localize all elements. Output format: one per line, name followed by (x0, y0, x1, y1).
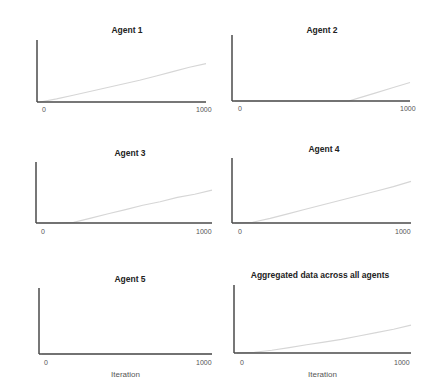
series-line (237, 325, 411, 353)
x-tick-zero: 0 (240, 359, 244, 366)
x-axis-label: Iteration (308, 370, 337, 379)
chart-title: Aggregated data across all agents (251, 270, 389, 280)
plot-area (0, 0, 432, 386)
x-tick-max: 1000 (394, 359, 410, 366)
